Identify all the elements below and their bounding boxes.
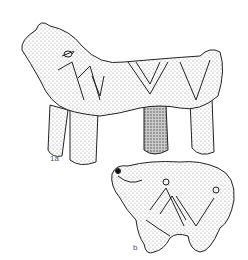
figurine-1a: [22, 23, 223, 165]
illustration: 1a b: [0, 0, 248, 260]
figure-label-1a: 1a: [50, 154, 59, 163]
figure-label-b: b: [133, 243, 138, 252]
figurine-b: [112, 162, 235, 254]
